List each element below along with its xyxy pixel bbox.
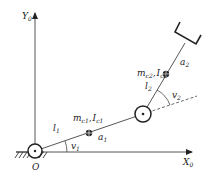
angle-v2-arc — [157, 90, 170, 105]
y-axis-label: Y0 — [22, 11, 32, 22]
robot-arm-diagram: Y0 X0 O l1 mc1,Ic1 a1 v1 l2 mc2,Ic2 a2 v… — [0, 0, 210, 179]
a1-label: a1 — [98, 132, 107, 143]
l2-label: l2 — [145, 81, 152, 92]
x-axis-label: X0 — [182, 157, 193, 168]
elbow-joint-icon — [135, 106, 151, 122]
v1-label: v1 — [71, 141, 80, 152]
v2-label: v2 — [172, 90, 181, 101]
m1-i1-label: mc1,Ic1 — [73, 113, 103, 124]
m2-i2-label: mc2,Ic2 — [137, 68, 168, 79]
l1-label: l1 — [53, 123, 60, 134]
base-joint-icon — [28, 144, 42, 158]
com-1-icon — [86, 130, 92, 136]
gripper-icon — [175, 22, 201, 44]
angle-v1-arc — [65, 141, 67, 152]
origin-label: O — [32, 162, 40, 172]
a2-label: a2 — [180, 57, 189, 68]
